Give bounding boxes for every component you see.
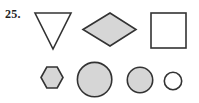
rhombus-icon [82,12,140,49]
shape-medium-circle [126,66,155,95]
shape-hexagon [40,66,66,91]
problem-number-label: 25. [5,7,21,21]
small-circle-path [164,72,181,89]
medium-circle-path [127,67,152,92]
shape-square [150,12,188,50]
small-circle-icon [163,71,184,92]
square-icon [150,12,188,50]
figure-page: 25. [0,0,199,103]
shape-inverted-triangle [34,12,74,52]
hexagon-icon [40,66,66,91]
square-path [151,13,186,48]
large-circle-path [77,62,111,96]
large-circle-icon [76,61,114,99]
shape-rhombus [82,12,140,49]
rhombus-path [83,13,136,46]
medium-circle-icon [126,66,155,95]
inverted-triangle-icon [34,12,74,52]
triangle-path [35,13,71,49]
shape-small-circle [163,71,184,92]
hexagon-path [41,67,63,88]
shape-large-circle [76,61,114,99]
